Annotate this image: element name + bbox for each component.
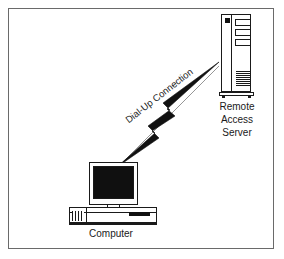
server-foot: [248, 96, 251, 98]
server-drive-bay: [235, 19, 251, 26]
server-label: Remote Access Server: [200, 100, 274, 139]
chassis-vent-grille: [72, 211, 84, 221]
computer-label: Computer: [62, 228, 160, 240]
server-panel-divider: [231, 15, 232, 93]
diagram-root: Dial-Up Connection Remote Access Server …: [0, 0, 284, 259]
tower-server-icon: [221, 14, 251, 92]
server-vent-grille: [236, 71, 250, 86]
server-drive-bay: [235, 29, 251, 36]
server-icon-group[interactable]: [219, 14, 263, 106]
server-foot: [222, 96, 225, 98]
computer-icon-group[interactable]: [65, 162, 157, 224]
monitor-screen: [93, 166, 134, 199]
server-label-line-1: Remote: [200, 100, 274, 113]
chassis-base-edge: [69, 223, 157, 225]
chassis-drive-slot: [129, 212, 150, 216]
server-label-line-3: Server: [200, 126, 274, 139]
server-label-line-2: Access: [200, 113, 274, 126]
power-led-icon: [225, 18, 230, 23]
server-drive-bay: [235, 39, 251, 46]
